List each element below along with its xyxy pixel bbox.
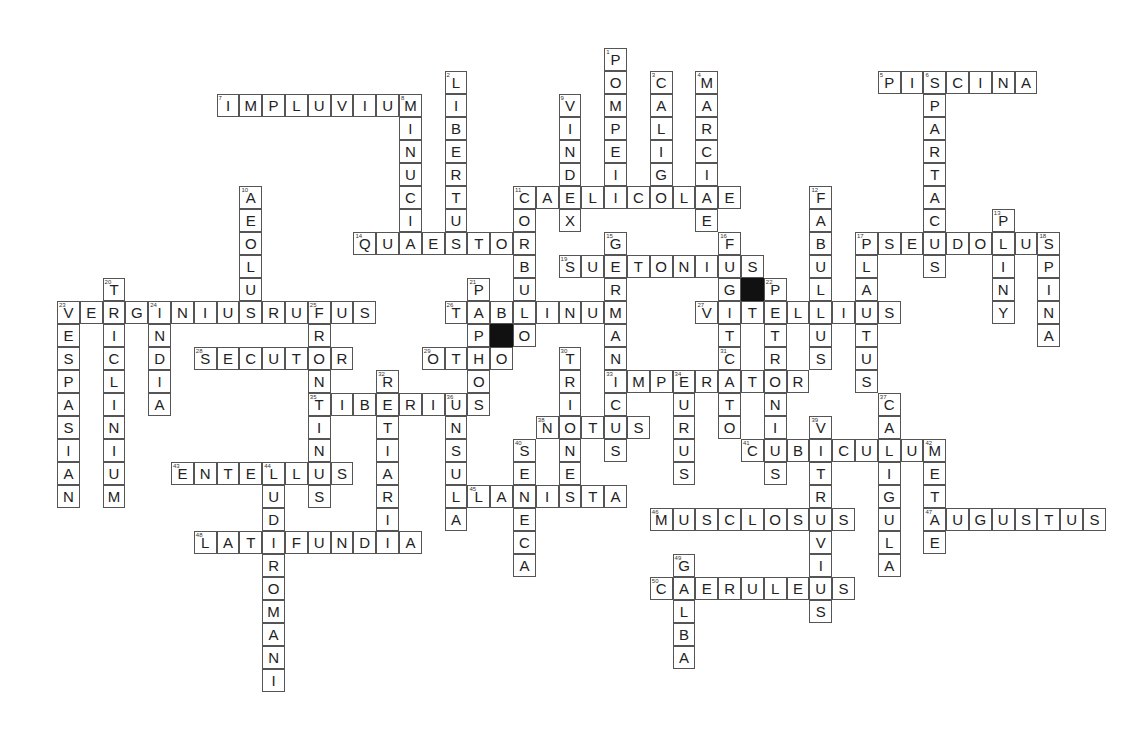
- crossword-cell[interactable]: I: [331, 393, 354, 416]
- crossword-cell[interactable]: T: [581, 485, 604, 508]
- crossword-cell[interactable]: R: [604, 278, 627, 301]
- crossword-cell[interactable]: M: [262, 600, 285, 623]
- crossword-cell[interactable]: I: [650, 140, 673, 163]
- crossword-cell[interactable]: U: [445, 462, 468, 485]
- crossword-cell[interactable]: R: [308, 324, 331, 347]
- crossword-cell[interactable]: S: [559, 485, 582, 508]
- crossword-cell[interactable]: U: [376, 232, 399, 255]
- crossword-cell[interactable]: T: [741, 301, 764, 324]
- crossword-cell[interactable]: U: [855, 439, 878, 462]
- crossword-cell[interactable]: 38N: [536, 416, 559, 439]
- crossword-cell[interactable]: U: [809, 324, 832, 347]
- crossword-cell[interactable]: 4M: [695, 71, 718, 94]
- crossword-cell[interactable]: T: [741, 370, 764, 393]
- crossword-cell[interactable]: N: [559, 301, 582, 324]
- crossword-cell[interactable]: O: [969, 232, 992, 255]
- crossword-cell[interactable]: O: [650, 255, 673, 278]
- crossword-cell[interactable]: R: [787, 370, 810, 393]
- crossword-cell[interactable]: R: [513, 232, 536, 255]
- crossword-cell[interactable]: S: [832, 508, 855, 531]
- crossword-cell[interactable]: E: [764, 301, 787, 324]
- crossword-cell[interactable]: U: [239, 278, 262, 301]
- crossword-cell[interactable]: 30T: [559, 347, 582, 370]
- crossword-cell[interactable]: T: [764, 324, 787, 347]
- crossword-cell[interactable]: R: [559, 370, 582, 393]
- crossword-cell[interactable]: I: [57, 439, 80, 462]
- crossword-cell[interactable]: E: [787, 577, 810, 600]
- crossword-cell[interactable]: E: [57, 324, 80, 347]
- crossword-cell[interactable]: I: [559, 393, 582, 416]
- crossword-cell[interactable]: P: [467, 324, 490, 347]
- crossword-cell[interactable]: 43E: [171, 462, 194, 485]
- crossword-cell[interactable]: S: [239, 301, 262, 324]
- crossword-cell[interactable]: S: [741, 255, 764, 278]
- crossword-cell[interactable]: C: [103, 347, 126, 370]
- crossword-cell[interactable]: R: [399, 393, 422, 416]
- crossword-cell[interactable]: S: [878, 232, 901, 255]
- crossword-cell[interactable]: A: [399, 531, 422, 554]
- crossword-cell[interactable]: M: [604, 301, 627, 324]
- crossword-cell[interactable]: T: [627, 255, 650, 278]
- crossword-cell[interactable]: M: [604, 94, 627, 117]
- crossword-cell[interactable]: U: [604, 416, 627, 439]
- crossword-cell[interactable]: M: [239, 94, 262, 117]
- crossword-cell[interactable]: U: [855, 347, 878, 370]
- crossword-cell[interactable]: A: [673, 646, 696, 669]
- crossword-cell[interactable]: U: [718, 255, 741, 278]
- crossword-cell[interactable]: U: [331, 301, 354, 324]
- crossword-cell[interactable]: E: [239, 209, 262, 232]
- crossword-cell[interactable]: R: [718, 577, 741, 600]
- crossword-cell[interactable]: I: [764, 416, 787, 439]
- crossword-cell[interactable]: A: [604, 485, 627, 508]
- crossword-cell[interactable]: D: [262, 508, 285, 531]
- crossword-cell[interactable]: U: [308, 94, 331, 117]
- crossword-cell[interactable]: R: [695, 370, 718, 393]
- crossword-cell[interactable]: E: [559, 186, 582, 209]
- crossword-cell[interactable]: U: [217, 301, 240, 324]
- crossword-cell[interactable]: 24I: [148, 301, 171, 324]
- crossword-cell[interactable]: N: [992, 71, 1015, 94]
- crossword-cell[interactable]: R: [331, 347, 354, 370]
- crossword-cell[interactable]: U: [741, 577, 764, 600]
- crossword-cell[interactable]: L: [285, 94, 308, 117]
- crossword-cell[interactable]: I: [376, 508, 399, 531]
- crossword-cell[interactable]: S: [764, 462, 787, 485]
- crossword-cell[interactable]: I: [604, 186, 627, 209]
- crossword-cell[interactable]: L: [992, 232, 1015, 255]
- crossword-cell[interactable]: B: [809, 232, 832, 255]
- crossword-cell[interactable]: G: [125, 301, 148, 324]
- crossword-cell[interactable]: U: [809, 577, 832, 600]
- crossword-cell[interactable]: 39V: [809, 416, 832, 439]
- crossword-cell[interactable]: U: [992, 508, 1015, 531]
- crossword-cell[interactable]: S: [878, 301, 901, 324]
- crossword-cell[interactable]: I: [445, 94, 468, 117]
- crossword-cell[interactable]: I: [148, 370, 171, 393]
- crossword-cell[interactable]: S: [809, 347, 832, 370]
- crossword-cell[interactable]: 8M: [399, 94, 422, 117]
- crossword-cell[interactable]: I: [422, 393, 445, 416]
- crossword-cell[interactable]: V: [809, 531, 832, 554]
- crossword-cell[interactable]: 31C: [718, 347, 741, 370]
- crossword-cell[interactable]: N: [262, 646, 285, 669]
- crossword-cell[interactable]: I: [103, 439, 126, 462]
- crossword-cell[interactable]: C: [718, 508, 741, 531]
- crossword-cell[interactable]: O: [308, 347, 331, 370]
- crossword-cell[interactable]: L: [673, 186, 696, 209]
- crossword-cell[interactable]: U: [673, 393, 696, 416]
- crossword-cell[interactable]: E: [376, 393, 399, 416]
- crossword-cell[interactable]: A: [467, 301, 490, 324]
- crossword-cell[interactable]: L: [741, 508, 764, 531]
- crossword-cell[interactable]: C: [239, 347, 262, 370]
- crossword-cell[interactable]: R: [809, 485, 832, 508]
- crossword-cell[interactable]: 32R: [376, 370, 399, 393]
- crossword-cell[interactable]: 13P: [992, 209, 1015, 232]
- crossword-cell[interactable]: A: [855, 278, 878, 301]
- crossword-cell[interactable]: O: [604, 71, 627, 94]
- crossword-cell[interactable]: U: [1060, 508, 1083, 531]
- crossword-cell[interactable]: L: [878, 439, 901, 462]
- crossword-cell[interactable]: N: [331, 531, 354, 554]
- crossword-cell[interactable]: L: [764, 577, 787, 600]
- crossword-cell[interactable]: R: [923, 140, 946, 163]
- crossword-cell[interactable]: 27V: [695, 301, 718, 324]
- crossword-cell[interactable]: U: [445, 209, 468, 232]
